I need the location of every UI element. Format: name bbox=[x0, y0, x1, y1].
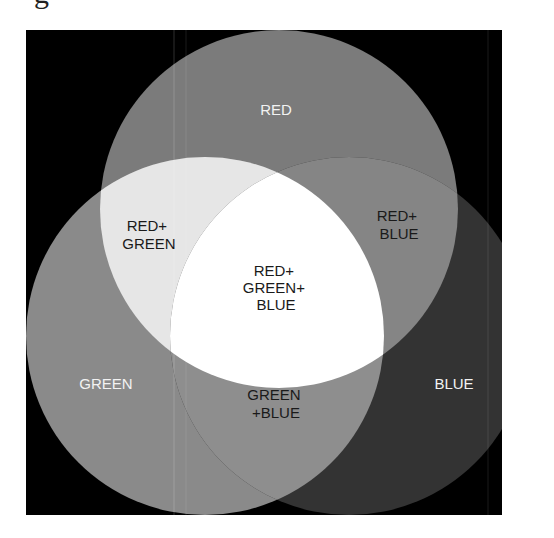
label-red: RED bbox=[260, 101, 292, 118]
label-green-blue: GREEN +BLUE bbox=[247, 386, 305, 421]
color-venn-diagram: RED RED+ GREEN RED+ BLUE RED+ GREEN+ BLU… bbox=[0, 0, 554, 538]
label-green: GREEN bbox=[79, 375, 132, 392]
label-red-blue: RED+ BLUE bbox=[377, 207, 422, 242]
label-blue: BLUE bbox=[434, 375, 473, 392]
label-red-green: RED+ GREEN bbox=[122, 217, 175, 252]
